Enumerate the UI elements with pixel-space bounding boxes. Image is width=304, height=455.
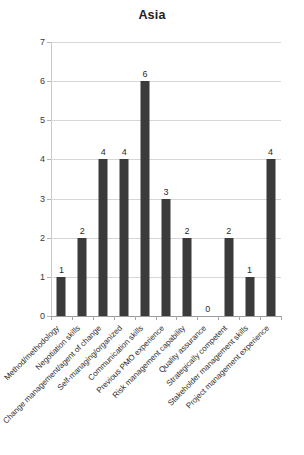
x-axis-category-labels: Method/methodologyNegotiation skillsChan… (0, 0, 304, 455)
bar-chart: Asia 01234567 12446320214 Method/methodo… (0, 0, 304, 455)
